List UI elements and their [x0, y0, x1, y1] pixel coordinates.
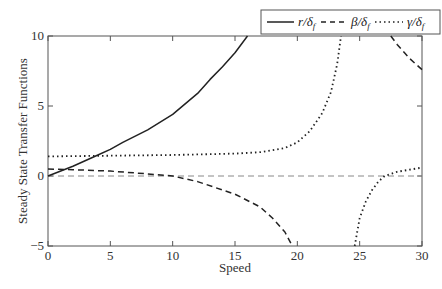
x-tick-label: 0 — [45, 248, 52, 263]
series-line-dashed — [48, 169, 292, 246]
y-axis-label: Steady State Transfer Functions — [15, 58, 30, 224]
x-tick-label: 30 — [416, 248, 429, 263]
x-tick-label: 20 — [291, 248, 304, 263]
series-group — [48, 36, 422, 246]
legend: r/δf β/δf γ/δf — [261, 10, 440, 34]
chart-canvas: 0510152025301050−5 Speed Steady State Tr… — [0, 0, 442, 289]
plot-area — [48, 36, 422, 246]
axis-ticks — [48, 36, 422, 246]
x-tick-label: 10 — [166, 248, 179, 263]
series-line-dashed — [391, 36, 422, 70]
y-tick-label: 0 — [38, 168, 45, 183]
series-line-dotted — [355, 168, 422, 246]
x-axis-label: Speed — [219, 260, 251, 275]
y-tick-label: 10 — [31, 28, 44, 43]
x-tick-label: 5 — [107, 248, 114, 263]
tick-labels: 0510152025301050−5 — [30, 28, 428, 263]
y-tick-label: −5 — [30, 238, 44, 253]
x-tick-label: 25 — [353, 248, 366, 263]
y-tick-label: 5 — [38, 98, 45, 113]
